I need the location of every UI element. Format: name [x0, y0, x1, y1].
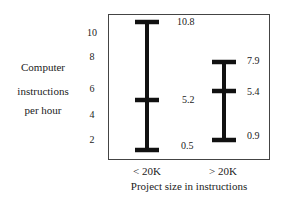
value-label-lt20k-mid: 5.2: [182, 95, 195, 105]
x-category-gt-20k: > 20K: [198, 166, 248, 177]
range-bar-lt-20k: [135, 22, 159, 150]
value-label-lt20k-high: 10.8: [177, 17, 195, 27]
value-label-gt20k-high: 7.9: [247, 56, 260, 66]
value-label-gt20k-mid: 5.4: [247, 87, 260, 97]
range-bar-gt-20k: [212, 62, 236, 140]
x-axis-title: Project size in instructions: [108, 181, 270, 192]
x-category-lt-20k: < 20K: [122, 166, 172, 177]
value-label-gt20k-low: 0.9: [247, 131, 260, 141]
value-label-lt20k-low: 0.5: [181, 141, 194, 151]
